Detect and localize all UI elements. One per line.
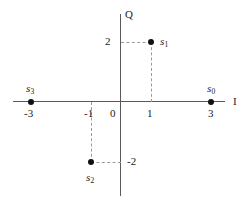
y-tick-negtwo: -2 [127,156,136,167]
point-label-s0-sub: 0 [212,87,216,96]
point-label-s2-base: s [86,171,90,183]
guide-s2-horizontal [91,162,121,163]
guide-s1-vertical [151,42,152,102]
point-label-s1-sub: 1 [165,40,169,49]
point-s0 [208,99,214,105]
point-label-s3: s3 [26,83,34,94]
point-label-s1: s1 [160,36,168,47]
x-tick-three: 3 [208,108,214,119]
point-s1 [148,39,154,45]
y-tick-two: 2 [105,36,111,47]
i-axis-label: I [233,96,237,107]
i-axis-line [13,101,225,102]
guide-s1-horizontal [121,42,151,43]
point-label-s3-sub: 3 [31,87,35,96]
x-tick-zero: 0 [110,108,116,119]
point-s3 [28,99,34,105]
x-tick-neg3: -3 [24,108,33,119]
q-axis-label: Q [125,9,133,20]
point-label-s0: s0 [207,83,215,94]
x-tick-neg1: -1 [84,108,93,119]
constellation-plot: s0 s1 s2 s3 Q I -3 -1 0 1 3 2 -2 [0,0,251,206]
point-label-s3-base: s [26,82,30,94]
point-s2 [88,159,94,165]
point-label-s1-base: s [160,35,164,47]
point-label-s2-sub: 2 [91,176,95,185]
point-label-s0-base: s [207,82,211,94]
point-label-s2: s2 [86,172,94,183]
x-tick-one: 1 [147,108,153,119]
